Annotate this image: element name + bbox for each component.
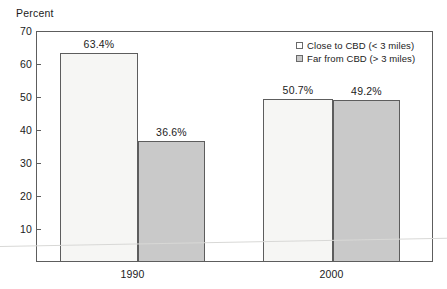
y-axis-tick — [36, 196, 41, 197]
x-axis-category-label: 2000 — [319, 268, 343, 280]
legend-item: Far from CBD (> 3 miles) — [296, 52, 415, 64]
y-axis-tick — [36, 229, 41, 230]
legend-swatch-icon — [296, 55, 303, 62]
bar-value-label: 36.6% — [156, 126, 187, 138]
y-axis-tick — [36, 163, 41, 164]
bar-value-label: 49.2% — [351, 85, 382, 97]
bar — [138, 141, 205, 262]
y-axis-tick-label: 10 — [2, 223, 32, 235]
y-axis-tick-label: 40 — [2, 124, 32, 136]
y-axis-tick — [36, 64, 41, 65]
legend-item: Close to CBD (< 3 miles) — [296, 39, 415, 51]
y-axis-tick-label: 60 — [2, 58, 32, 70]
bar — [333, 100, 400, 262]
y-axis-tick-label: 50 — [2, 91, 32, 103]
y-axis-title: Percent — [16, 7, 54, 19]
y-axis-tick-label: 70 — [2, 25, 32, 37]
legend: Close to CBD (< 3 miles) Far from CBD (>… — [296, 39, 415, 65]
legend-swatch-icon — [296, 42, 303, 49]
bar-value-label: 63.4% — [84, 38, 115, 50]
x-axis-category-label: 1990 — [120, 268, 144, 280]
y-axis-tick — [36, 130, 41, 131]
y-axis-tick-label: 20 — [2, 190, 32, 202]
y-axis-tick-label: 30 — [2, 157, 32, 169]
bar — [263, 99, 333, 262]
legend-item-label: Close to CBD (< 3 miles) — [307, 40, 414, 51]
bar — [60, 53, 138, 262]
y-axis-tick — [36, 97, 41, 98]
bar-chart: Percent 10203040506070 63.4%36.6%50.7%49… — [0, 0, 447, 289]
legend-item-label: Far from CBD (> 3 miles) — [307, 53, 415, 64]
bar-value-label: 50.7% — [283, 84, 314, 96]
